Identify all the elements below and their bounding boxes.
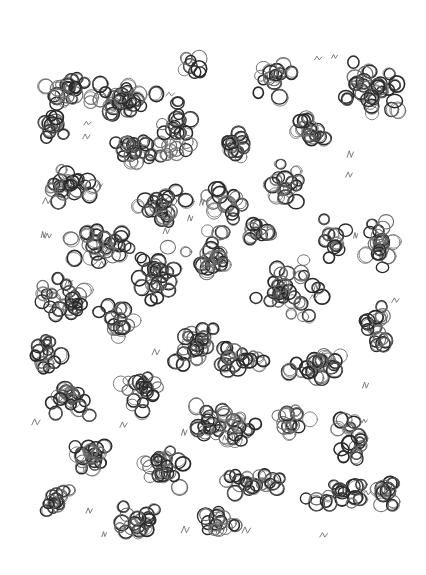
circle-sketch-artwork xyxy=(0,0,426,575)
